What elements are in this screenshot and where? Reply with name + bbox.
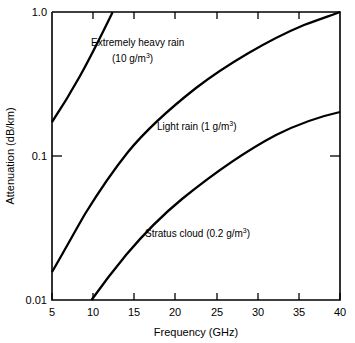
x-tick-label-10: 10 (87, 306, 99, 318)
chart-figure: 5 10 15 20 25 30 35 40 1.0 0.1 0.01 Freq… (0, 0, 355, 343)
y-axis-title: Attenuation (dB/km) (4, 107, 16, 204)
x-tick-label-5: 5 (49, 306, 55, 318)
x-tick-label-40: 40 (334, 306, 346, 318)
heavy-rain-label-line2: (10 g/m3) (112, 52, 153, 64)
curve-extremely-heavy-rain (52, 12, 113, 122)
curve-stratus-cloud (92, 112, 341, 300)
y-tick-label-0.01: 0.01 (26, 294, 47, 306)
light-rain-label: Light rain (1 g/m3) (157, 120, 237, 132)
y-tick-labels: 1.0 0.1 0.01 (26, 6, 47, 306)
axis-frame (52, 12, 340, 300)
x-tick-label-35: 35 (293, 306, 305, 318)
stratus-cloud-label-value: Stratus cloud (0.2 g/m (145, 228, 243, 239)
heavy-rain-label-paren: ) (150, 53, 153, 64)
x-tick-label-15: 15 (128, 306, 140, 318)
x-tick-label-30: 30 (252, 306, 264, 318)
heavy-rain-label-value: (10 g/m (112, 53, 146, 64)
data-curves (52, 12, 340, 300)
heavy-rain-label-line1: Extremely heavy rain (91, 37, 184, 48)
x-axis-ticks-top (93, 12, 299, 19)
light-rain-label-paren: ) (233, 121, 236, 132)
x-tick-labels: 5 10 15 20 25 30 35 40 (49, 306, 346, 318)
stratus-cloud-label-paren: ) (247, 228, 250, 239)
light-rain-label-value: Light rain (1 g/m (157, 121, 229, 132)
x-tick-label-25: 25 (211, 306, 223, 318)
attenuation-vs-frequency-chart: 5 10 15 20 25 30 35 40 1.0 0.1 0.01 Freq… (0, 0, 355, 343)
x-tick-label-20: 20 (169, 306, 181, 318)
stratus-cloud-label: Stratus cloud (0.2 g/m3) (145, 227, 250, 239)
y-tick-label-0.1: 0.1 (32, 150, 47, 162)
x-axis-title: Frequency (GHz) (154, 326, 238, 338)
plot-border (52, 12, 340, 300)
y-tick-label-1.0: 1.0 (32, 6, 47, 18)
